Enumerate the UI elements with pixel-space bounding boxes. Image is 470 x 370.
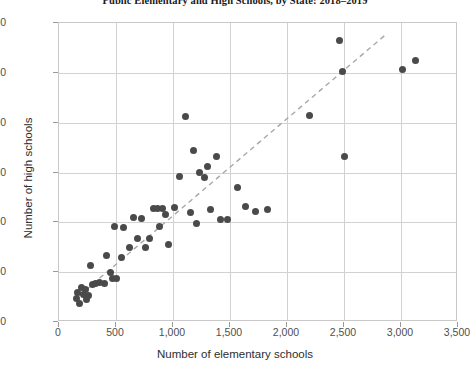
data-point: [176, 173, 183, 180]
x-tick-mark: [400, 322, 401, 327]
x-tick-label: 2,000: [273, 326, 299, 338]
y-tick-label: 1000: [0, 66, 6, 78]
data-point: [187, 209, 194, 216]
chart-title: Public Elementary and High Schools, by S…: [0, 0, 470, 6]
x-tick-mark: [229, 322, 230, 327]
data-point: [120, 224, 127, 231]
data-point: [252, 208, 259, 215]
data-point: [336, 37, 343, 44]
scatter-chart: Public Elementary and High Schools, by S…: [0, 0, 470, 370]
data-point: [162, 211, 169, 218]
data-point: [118, 254, 125, 261]
data-point: [113, 275, 120, 282]
x-tick-label: 3,500: [444, 326, 470, 338]
gridline-vertical: [287, 23, 288, 320]
data-point: [85, 292, 92, 299]
data-point: [242, 203, 249, 210]
data-point: [264, 206, 271, 213]
x-tick-label: 500: [106, 326, 124, 338]
y-tick-label: 400: [0, 215, 6, 227]
gridline-horizontal: [59, 173, 456, 174]
data-point: [130, 214, 137, 221]
x-tick-mark: [172, 322, 173, 327]
gridline-horizontal: [59, 73, 456, 74]
data-point: [134, 235, 141, 242]
data-point: [156, 223, 163, 230]
data-point: [87, 262, 94, 269]
gridline-horizontal: [59, 222, 456, 223]
data-point: [201, 174, 208, 181]
data-point: [306, 112, 313, 119]
gridline-horizontal: [59, 123, 456, 124]
data-point: [193, 220, 200, 227]
x-tick-mark: [58, 322, 59, 327]
data-point: [207, 206, 214, 213]
data-point: [101, 280, 108, 287]
data-point: [412, 57, 419, 64]
x-tick-label: 0: [55, 326, 61, 338]
y-tick-label: 0: [0, 315, 6, 327]
x-tick-mark: [286, 322, 287, 327]
x-tick-label: 2,500: [330, 326, 356, 338]
data-point: [213, 153, 220, 160]
data-point: [182, 113, 189, 120]
data-point: [165, 241, 172, 248]
x-tick-label: 1,000: [159, 326, 185, 338]
data-point: [146, 235, 153, 242]
x-tick-mark: [115, 322, 116, 327]
gridline-vertical: [173, 23, 174, 320]
x-tick-label: 3,000: [387, 326, 413, 338]
data-point: [224, 216, 231, 223]
y-tick-label: 200: [0, 265, 6, 277]
data-point: [399, 66, 406, 73]
data-point: [234, 184, 241, 191]
data-point: [111, 223, 118, 230]
x-tick-label: 1,500: [216, 326, 242, 338]
plot-area: [58, 22, 457, 321]
data-point: [190, 147, 197, 154]
data-point: [204, 163, 211, 170]
data-point: [171, 204, 178, 211]
x-tick-mark: [457, 322, 458, 327]
y-tick-label: 1200: [0, 16, 6, 28]
data-point: [142, 244, 149, 251]
x-axis-label: Number of elementary schools: [0, 348, 470, 360]
data-point: [339, 68, 346, 75]
data-point: [126, 244, 133, 251]
gridline-horizontal: [59, 272, 456, 273]
gridline-vertical: [230, 23, 231, 320]
data-point: [341, 153, 348, 160]
data-point: [138, 215, 145, 222]
x-tick-mark: [343, 322, 344, 327]
data-point: [103, 252, 110, 259]
y-tick-label: 600: [0, 166, 6, 178]
data-point: [76, 300, 83, 307]
y-axis-label: Number of high schools: [22, 88, 34, 268]
y-tick-label: 800: [0, 116, 6, 128]
